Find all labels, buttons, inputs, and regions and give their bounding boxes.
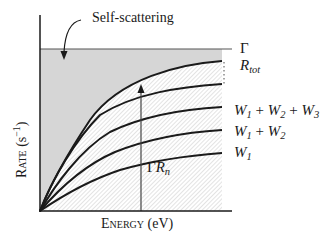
curve-label-w12: W1 + W2 <box>234 123 285 141</box>
w-symbol: W <box>301 102 314 118</box>
self-scattering-pointer-arrow <box>64 20 81 52</box>
w-sub: 1 <box>247 151 252 162</box>
w-symbol: W <box>234 144 247 160</box>
n-sub: n <box>165 166 170 177</box>
x-axis-title: Energy <box>101 216 144 231</box>
gamma-rn-label: ΓRn <box>147 159 170 177</box>
x-axis-label: Energy (eV) <box>101 216 173 232</box>
gamma-label: Γ <box>240 40 249 57</box>
r-symbol: R <box>156 159 165 175</box>
curve-label-w123: W1 + W2 + W3 <box>234 102 319 120</box>
rtot-label: Rtot <box>240 57 260 75</box>
curve-label-w1: W1 <box>234 144 252 162</box>
self-scattering-label: Self-scattering <box>92 10 174 26</box>
y-axis-label: Rate (s−1) <box>11 122 30 178</box>
plus: + <box>285 102 301 118</box>
plus: + <box>252 123 268 139</box>
w-symbol: W <box>234 102 247 118</box>
w-sub: 3 <box>314 109 319 120</box>
y-axis-unit-exponent: −1 <box>11 126 22 136</box>
w-symbol: W <box>268 123 281 139</box>
y-axis-unit: (s <box>14 137 29 147</box>
y-axis-unit-close: ) <box>14 122 29 127</box>
w-symbol: W <box>234 123 247 139</box>
w-sub: 2 <box>280 130 285 141</box>
rtot-sub: tot <box>249 64 260 75</box>
rtot-main: R <box>240 57 249 73</box>
plus: + <box>252 102 268 118</box>
w-symbol: W <box>268 102 281 118</box>
scattering-rate-diagram <box>0 0 335 243</box>
y-axis-title: Rate <box>14 150 29 178</box>
gamma-symbol: Γ <box>147 159 156 175</box>
x-axis-unit: (eV) <box>148 216 174 231</box>
